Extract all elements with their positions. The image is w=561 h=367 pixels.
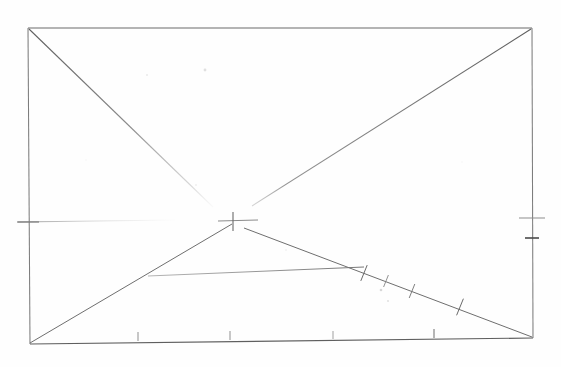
sketch-canvas: Hand-drawn geometric construction sketch… [0, 0, 561, 367]
smudge-2 [146, 74, 148, 76]
smudge-4 [387, 300, 389, 302]
smudge-3 [380, 289, 383, 292]
smudge-8 [85, 159, 87, 161]
smudge-5 [195, 184, 197, 186]
smudge-1 [204, 69, 207, 72]
smudge-7 [461, 161, 463, 163]
paper-background [0, 0, 561, 367]
smudge-6 [285, 249, 287, 251]
sketch-drawing [0, 0, 561, 367]
